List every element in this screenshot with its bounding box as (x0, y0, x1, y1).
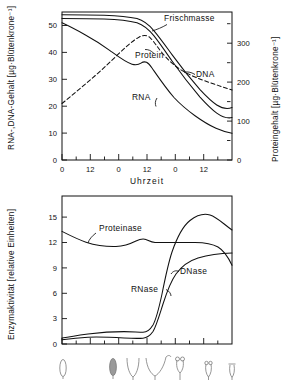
bottom-panel: 0 3 6 9 12 15 Enzymaktivität [relative E… (7, 196, 232, 349)
flower-stage-strip (60, 356, 236, 381)
bottom-ytick-15: 15 (49, 213, 57, 222)
top-xtick-0a: 0 (60, 165, 64, 174)
top-left-y-ticks (62, 26, 67, 161)
top-right-ytick-300: 300 (237, 39, 250, 48)
label-rnase: RNase (131, 284, 158, 294)
flower-stage-fully-open-icon (176, 357, 185, 380)
flower-stage-pigmented-bud-icon (110, 358, 117, 379)
top-x-ticks (62, 154, 218, 160)
top-ytick-30: 30 (49, 75, 57, 84)
leader-frischmasse (152, 25, 167, 32)
bottom-ytick-12: 12 (49, 238, 57, 247)
top-plot-frame (62, 12, 232, 160)
flower-stage-wilting-icon (205, 361, 212, 380)
top-right-ytick-0: 0 (237, 156, 241, 165)
top-right-ytick-100: 100 (237, 117, 250, 126)
label-proteinase: Proteinase (99, 223, 142, 233)
flower-stage-senescent-icon (229, 364, 236, 380)
top-ytick-10: 10 (49, 129, 57, 138)
top-xtick-0b: 0 (117, 165, 121, 174)
top-ytick-0: 0 (53, 156, 57, 165)
top-panel: 0 10 20 30 40 50 0 100 200 300 (7, 6, 280, 186)
leader-proteinase (88, 233, 96, 243)
top-ytick-50: 50 (49, 21, 57, 30)
top-right-y-ticks (227, 24, 232, 160)
x-axis-title: Uhrzeit (130, 176, 164, 186)
bottom-x-ticks (62, 338, 218, 344)
flower-stage-closed-bud-icon (60, 360, 66, 380)
leader-rna (155, 98, 157, 107)
top-xtick-0c: 0 (173, 165, 177, 174)
label-rna: RNA (132, 92, 151, 102)
top-xtick-12a: 12 (86, 165, 94, 174)
flower-stage-opening-bud-icon (127, 358, 139, 380)
left-axis-title: RNA-,DNA-Gehalt [µg·Blütenkrone⁻¹] (7, 6, 16, 150)
label-dna: DNA (196, 69, 215, 79)
label-frischmasse: Frischmasse (164, 13, 215, 23)
top-right-ytick-200: 200 (237, 78, 250, 87)
right-axis-title: Proteingehalt [µg·Blütenkrone⁻¹] (271, 37, 280, 163)
flower-stage-open-flower-icon (146, 356, 171, 381)
bottom-ytick-6: 6 (53, 289, 57, 298)
bottom-axis-title: Enzymaktivität [relative Einheiten] (7, 209, 16, 340)
curve-proteinase (62, 231, 232, 265)
label-protein: Protein (135, 50, 164, 60)
top-xtick-12b: 12 (143, 165, 151, 174)
bottom-ytick-3: 3 (53, 314, 57, 323)
bottom-ytick-0: 0 (53, 340, 57, 349)
top-ytick-40: 40 (49, 48, 57, 57)
scientific-figure: 0 10 20 30 40 50 0 100 200 300 (0, 0, 286, 385)
bottom-y-ticks (62, 217, 67, 344)
bottom-ytick-9: 9 (53, 264, 57, 273)
top-ytick-20: 20 (49, 102, 57, 111)
top-xtick-12c: 12 (199, 165, 207, 174)
figure-container: 0 10 20 30 40 50 0 100 200 300 (0, 0, 286, 385)
curve-rnase (62, 214, 232, 338)
label-dnase: DNase (180, 266, 207, 276)
